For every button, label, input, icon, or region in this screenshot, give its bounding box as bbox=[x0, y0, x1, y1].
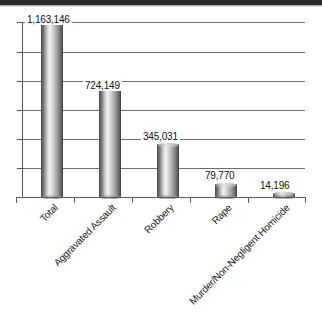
bar-total bbox=[41, 21, 63, 197]
value-label-robbery: 345,031 bbox=[141, 131, 180, 142]
y-axis-tick bbox=[17, 168, 23, 169]
value-label-total: 1,163,146 bbox=[25, 14, 72, 25]
gridline bbox=[22, 81, 305, 82]
category-label-murder-nonnegligent-homicide: Murder/Non-Negligent Homicide bbox=[187, 202, 292, 307]
bar-rape bbox=[215, 184, 237, 197]
y-axis-tick bbox=[17, 22, 23, 23]
bar-robbery bbox=[157, 144, 179, 197]
bar-aggravated-assault bbox=[99, 87, 121, 197]
category-label-robbery: Robbery bbox=[142, 202, 176, 236]
x-axis-tick bbox=[74, 197, 75, 203]
y-axis-tick bbox=[17, 81, 23, 82]
category-label-total: Total bbox=[38, 202, 61, 225]
x-axis-tick bbox=[16, 197, 17, 203]
x-axis-tick bbox=[305, 197, 306, 203]
y-axis-tick bbox=[17, 139, 23, 140]
value-label-murder-nonnegligent-homicide: 14,196 bbox=[258, 180, 291, 191]
value-label-rape: 79,770 bbox=[203, 170, 236, 181]
x-axis-tick bbox=[248, 197, 249, 203]
value-label-aggravated-assault: 724,149 bbox=[83, 80, 122, 91]
gridline bbox=[22, 52, 305, 53]
x-axis-tick bbox=[190, 197, 191, 203]
y-axis-tick bbox=[17, 110, 23, 111]
y-axis-tick bbox=[17, 52, 23, 53]
bar-chart: 1,163,146 724,149 345,031 79,770 14,196 … bbox=[0, 0, 322, 324]
category-label-aggravated-assault: Aggravated Assault bbox=[52, 202, 119, 269]
category-label-rape: Rape bbox=[210, 202, 235, 227]
plot-area bbox=[22, 22, 305, 197]
gridline bbox=[22, 110, 305, 111]
x-axis bbox=[16, 197, 306, 198]
x-axis-tick bbox=[132, 197, 133, 203]
